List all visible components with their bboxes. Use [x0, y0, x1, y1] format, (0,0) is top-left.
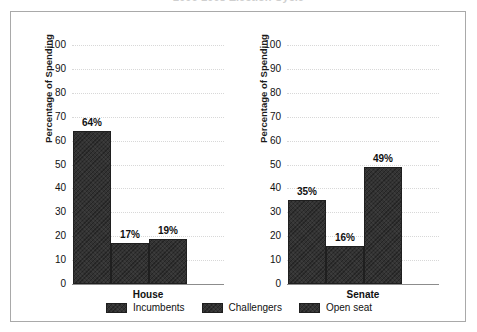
y-tick-label-senate-20: 20 [243, 231, 281, 241]
y-tick-label-house-60: 60 [28, 136, 66, 146]
bar-house-open-seat[interactable] [149, 239, 187, 284]
legend-label-1: Challengers [229, 302, 282, 313]
legend-swatch-icon-2 [299, 303, 320, 313]
legend-label-2: Open seat [326, 302, 372, 313]
gridline-senate-0 [287, 284, 439, 285]
legend-item-open-seat[interactable]: Open seat [299, 302, 372, 313]
y-tick-label-house-10: 10 [28, 255, 66, 265]
bar-value-label-senate-2: 49% [360, 153, 406, 164]
y-tick-label-senate-50: 50 [243, 160, 281, 170]
y-tick-label-house-30: 30 [28, 207, 66, 217]
legend-item-challengers[interactable]: Challengers [202, 302, 282, 313]
y-tick-label-senate-90: 90 [243, 64, 281, 74]
y-tick-label-senate-30: 30 [243, 207, 281, 217]
y-tick-label-house-0: 0 [28, 279, 66, 289]
y-tick-label-senate-100: 100 [243, 40, 281, 50]
legend-swatch-icon-0 [106, 303, 127, 313]
y-tick-label-senate-10: 10 [243, 255, 281, 265]
chart-frame: Percentage of Spending 01020304050607080… [10, 11, 466, 322]
bar-value-label-house-2: 19% [145, 225, 191, 236]
y-tick-label-senate-40: 40 [243, 183, 281, 193]
plot-area-senate: 0102030405060708090100 35%16%49% [287, 45, 439, 284]
bar-house-incumbents[interactable] [73, 131, 111, 284]
panel-senate: Percentage of Spending 01020304050607080… [239, 23, 444, 298]
chart-legend: IncumbentsChallengersOpen seat [11, 302, 467, 313]
bars-house: 64%17%19% [72, 45, 224, 284]
chart-title: 2006-2008 Election Cycle [0, 0, 477, 3]
y-tick-label-senate-0: 0 [243, 279, 281, 289]
bars-senate: 35%16%49% [287, 45, 439, 284]
y-tick-label-house-100: 100 [28, 40, 66, 50]
gridline-house-0 [72, 284, 224, 285]
y-tick-label-house-50: 50 [28, 160, 66, 170]
chart-title-strip: 2006-2008 Election Cycle [0, 0, 477, 10]
y-tick-label-house-80: 80 [28, 88, 66, 98]
legend-label-0: Incumbents [133, 302, 185, 313]
bar-senate-challengers[interactable] [326, 246, 364, 284]
legend-swatch-icon-1 [202, 303, 223, 313]
y-tick-label-senate-70: 70 [243, 112, 281, 122]
y-tick-label-senate-60: 60 [243, 136, 281, 146]
plot-area-house: 0102030405060708090100 64%17%19% [72, 45, 224, 284]
panel-house: Percentage of Spending 01020304050607080… [24, 23, 229, 298]
bar-senate-open-seat[interactable] [364, 167, 402, 284]
bar-house-challengers[interactable] [111, 243, 149, 284]
y-tick-label-senate-80: 80 [243, 88, 281, 98]
legend-item-incumbents[interactable]: Incumbents [106, 302, 185, 313]
bar-value-label-senate-1: 16% [322, 232, 368, 243]
y-tick-label-house-90: 90 [28, 64, 66, 74]
bar-value-label-house-0: 64% [69, 117, 115, 128]
category-label-house: House [72, 289, 224, 300]
y-tick-label-house-70: 70 [28, 112, 66, 122]
bar-senate-incumbents[interactable] [288, 200, 326, 284]
y-tick-label-house-20: 20 [28, 231, 66, 241]
category-label-senate: Senate [287, 289, 439, 300]
bar-value-label-senate-0: 35% [284, 186, 330, 197]
y-tick-label-house-40: 40 [28, 183, 66, 193]
